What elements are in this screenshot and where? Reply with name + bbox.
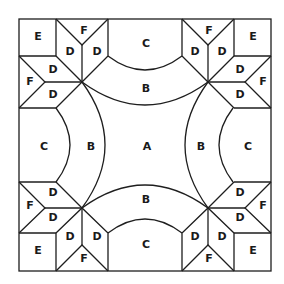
piece-label-f-tr-top: F <box>205 24 213 37</box>
piece-label-f-tl-left: F <box>26 75 34 88</box>
piece-label-f-tl-top: F <box>80 24 88 37</box>
piece-label-b-left: B <box>87 140 95 153</box>
piece-label-d-tl-3: D <box>48 63 57 76</box>
piece-label-e-tl: E <box>34 30 42 43</box>
piece-label-f-bl-bottom: F <box>80 252 88 265</box>
piece-label-d-br-1: D <box>235 186 244 199</box>
piece-label-f-tr-right: F <box>259 75 267 88</box>
piece-label-d-tr-3: D <box>235 63 244 76</box>
piece-label-a: A <box>143 140 152 153</box>
piece-label-d-bl-3: D <box>65 230 74 243</box>
piece-label-d-bl-1: D <box>48 186 57 199</box>
piece-label-d-tl-1: D <box>65 45 74 58</box>
piece-label-d-tl-2: D <box>92 45 101 58</box>
piece-label-e-bl: E <box>34 244 42 257</box>
piece-label-c-bottom: C <box>142 238 150 251</box>
piece-label-f-br-bottom: F <box>205 252 213 265</box>
piece-label-d-tr-4: D <box>235 88 244 101</box>
piece-label-b-bottom: B <box>142 193 150 206</box>
piece-label-d-tl-4: D <box>48 88 57 101</box>
star-bottom-right <box>182 182 271 271</box>
piece-label-b-right: B <box>197 140 205 153</box>
piece-label-d-br-4: D <box>217 230 226 243</box>
piece-label-d-tr-1: D <box>190 45 199 58</box>
piece-label-c-top: C <box>142 37 150 50</box>
piece-label-c-left: C <box>40 140 48 153</box>
piece-label-d-bl-4: D <box>92 230 101 243</box>
piece-label-f-bl-left: F <box>26 199 34 212</box>
piece-label-e-br: E <box>249 244 257 257</box>
star-bottom-left <box>19 182 108 271</box>
piece-label-e-tr: E <box>249 30 257 43</box>
star-top-right <box>182 19 271 108</box>
piece-label-b-top: B <box>142 82 150 95</box>
quilt-block-diagram: ABBBBCCCCEEEEFFFFFFFFDDDDDDDDDDDDDDDD <box>0 0 284 284</box>
piece-label-d-br-3: D <box>190 230 199 243</box>
piece-label-d-bl-2: D <box>48 211 57 224</box>
piece-label-f-br-right: F <box>259 199 267 212</box>
piece-label-c-right: C <box>244 140 252 153</box>
piece-label-d-br-2: D <box>235 211 244 224</box>
star-top-left <box>19 19 108 108</box>
piece-label-d-tr-2: D <box>217 45 226 58</box>
